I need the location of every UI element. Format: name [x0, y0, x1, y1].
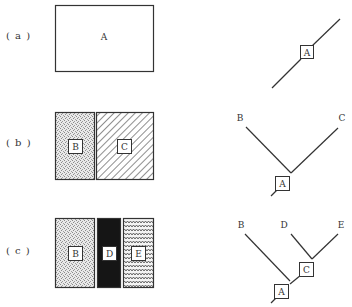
node-c-label: C: [303, 265, 310, 275]
panel-a-regions: A: [56, 6, 154, 72]
tree-branch: [291, 128, 338, 173]
node-a-label: A: [277, 287, 285, 297]
tree-branch: [272, 59, 301, 88]
tree-branch: [291, 234, 312, 259]
node-a-label: A: [278, 179, 286, 189]
region-d-label: D: [106, 249, 113, 259]
leaf-c-label: C: [339, 113, 346, 123]
tree-branch: [246, 127, 291, 173]
panel-b-regions: B C: [56, 113, 154, 180]
leaf-b-label: B: [237, 113, 244, 123]
tree-branch: [312, 19, 340, 46]
leaf-b-label: B: [238, 220, 245, 230]
region-e-label: E: [135, 249, 142, 259]
region-b-label: B: [72, 142, 79, 152]
panel-c-regions: B D E: [56, 219, 154, 288]
tree-branch: [312, 234, 338, 259]
panel-b-tree: B C A: [237, 113, 346, 196]
leaf-e-label: E: [338, 220, 345, 230]
region-c-label: C: [121, 142, 128, 152]
tree-branch: [245, 234, 290, 281]
leaf-d-label: D: [280, 220, 287, 230]
node-a-label: A: [303, 48, 311, 58]
region-b-label: B: [72, 249, 79, 259]
panel-a-tree: A: [272, 19, 340, 88]
region-a-label: A: [100, 32, 108, 42]
panel-c-tree: B D E C A: [238, 220, 345, 303]
diagram-canvas: A A B C B C A B D E B: [0, 0, 352, 307]
